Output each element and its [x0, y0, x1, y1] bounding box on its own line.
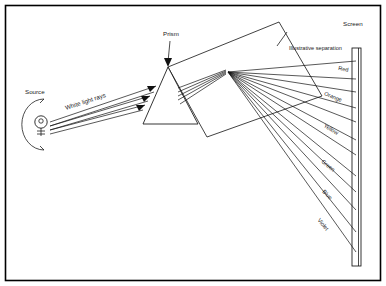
- diagram-canvas: Source White light rays Prism Illustrati…: [0, 0, 386, 286]
- color-label-yellow: Yellow: [323, 122, 341, 136]
- source-label: Source: [25, 88, 45, 95]
- screen-label: Screen: [343, 20, 363, 27]
- color-label-red: Red: [338, 65, 349, 73]
- prism-shape: [143, 67, 198, 124]
- screen-bar: [352, 48, 361, 266]
- prism-label: Prism: [163, 30, 179, 37]
- light-source-lamp: [22, 99, 47, 150]
- color-label-green: Green: [320, 158, 336, 172]
- color-label-orange: Orange: [323, 90, 343, 103]
- white-light-rays-label: White light rays: [64, 91, 106, 111]
- color-label-blue: Blue: [321, 189, 333, 201]
- prism-leader-arrow: [164, 41, 172, 67]
- optics-diagram-figure: Source White light rays Prism Illustrati…: [0, 0, 386, 286]
- color-label-violet: Violet: [316, 217, 330, 232]
- dispersed-ray-fan: [228, 61, 356, 252]
- illustrative-separation-label: Illustrative separation: [289, 45, 342, 51]
- separation-leader-line: [277, 32, 287, 46]
